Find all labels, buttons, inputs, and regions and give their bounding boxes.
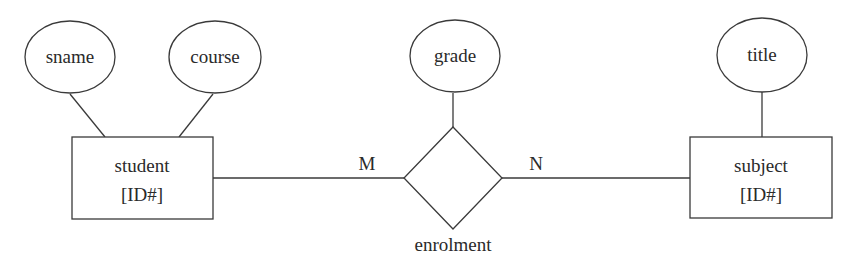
entity-label: student xyxy=(115,155,171,176)
relationship-diamond xyxy=(404,127,502,229)
er-diagram: sname course grade title student [ID#] s… xyxy=(0,0,858,265)
attribute-sname: sname xyxy=(25,21,115,93)
entity-key: [ID#] xyxy=(121,184,163,205)
entity-box xyxy=(690,137,832,218)
relationship-enrolment: enrolment xyxy=(404,127,502,255)
entity-box xyxy=(72,137,213,219)
attribute-title: title xyxy=(717,18,807,92)
attribute-grade: grade xyxy=(410,20,500,92)
cardinality-left: M xyxy=(359,153,376,174)
sname-connector xyxy=(70,94,105,137)
attribute-label: title xyxy=(747,44,777,65)
course-connector xyxy=(179,94,213,137)
entity-label: subject xyxy=(734,155,789,176)
entity-key: [ID#] xyxy=(740,184,782,205)
attribute-label: course xyxy=(190,46,240,67)
relationship-label: enrolment xyxy=(414,234,492,255)
cardinality-right: N xyxy=(529,153,543,174)
entity-subject: subject [ID#] xyxy=(690,137,832,218)
attribute-label: sname xyxy=(46,46,95,67)
attribute-label: grade xyxy=(434,45,476,66)
entity-student: student [ID#] xyxy=(72,137,213,219)
attribute-course: course xyxy=(169,21,261,93)
